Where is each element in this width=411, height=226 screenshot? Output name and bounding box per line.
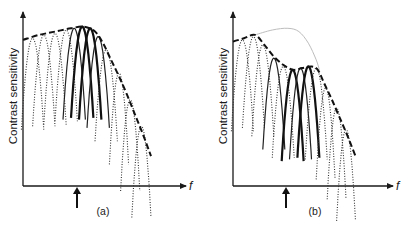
channel-curves (21, 27, 151, 218)
panel-caption: (b) (309, 205, 322, 217)
x-axis-label: f (189, 179, 194, 193)
channel-curve (33, 35, 55, 126)
original-envelope-curve (255, 28, 319, 70)
adaptation-arrow (282, 187, 290, 208)
y-axis-label: Contrast sensitivity (7, 48, 19, 145)
channel-curve (109, 73, 128, 164)
x-axis-label: f (396, 179, 401, 193)
channel-curve (242, 37, 264, 128)
panel-b: Contrast sensitivity f (b) (217, 12, 401, 221)
channel-curve (337, 130, 356, 221)
channel-curve (44, 33, 66, 124)
channel-curve (132, 126, 151, 217)
channel-curve (95, 50, 117, 141)
panel-a: Contrast sensitivity f (a) (7, 12, 194, 218)
y-axis-label: Contrast sensitivity (217, 48, 229, 145)
channel-curve (121, 100, 140, 191)
figure: Contrast sensitivity f (a) Contrast sens… (0, 0, 411, 226)
adaptation-arrow (73, 187, 81, 208)
channel-curve (21, 38, 43, 129)
channel-curves (231, 37, 355, 221)
channel-curve (252, 45, 274, 136)
panel-caption: (a) (97, 205, 110, 217)
channel-curve (231, 40, 253, 131)
